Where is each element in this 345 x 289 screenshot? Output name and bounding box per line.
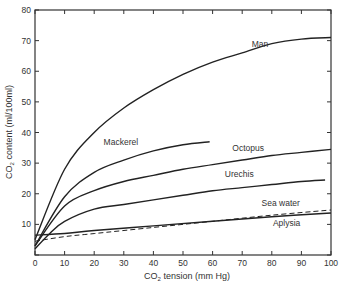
y-axis-label: CO2 content (ml/100ml): [4, 85, 15, 179]
x-tick-label: 0: [33, 258, 38, 268]
x-tick-label: 30: [119, 258, 129, 268]
series-line-man: [35, 38, 331, 240]
series-label-sea-water: Sea water: [262, 198, 300, 208]
series-label-octopus: Octopus: [232, 143, 264, 153]
x-tick-label: 60: [208, 258, 218, 268]
series-label-man: Man: [252, 39, 269, 49]
x-tick-label: 100: [324, 258, 338, 268]
x-tick-label: 10: [60, 258, 70, 268]
series-label-mackerel: Mackerel: [104, 137, 139, 147]
x-tick-label: 90: [297, 258, 307, 268]
x-tick-label: 20: [89, 258, 99, 268]
y-tick-label: 10: [22, 219, 32, 229]
x-axis-label: CO2 tension (mm Hg): [144, 271, 230, 282]
y-tick-label: 50: [22, 97, 32, 107]
y-tick-label: 60: [22, 66, 32, 76]
x-tick-label: 50: [178, 258, 188, 268]
y-tick-label: 20: [22, 189, 32, 199]
y-tick-label: 70: [22, 36, 32, 46]
x-tick-label: 40: [149, 258, 159, 268]
series-label-urechis: Urechis: [225, 169, 254, 179]
series-label-aplysia: Aplysia: [273, 218, 301, 228]
x-tick-label: 70: [237, 258, 247, 268]
co2-dissociation-chart: 01020304050607080901001020304050607080 M…: [0, 0, 345, 289]
y-tick-label: 80: [22, 5, 32, 15]
y-tick-label: 30: [22, 158, 32, 168]
series-labels: ManMackerelOctopusUrechisSea waterAplysi…: [104, 39, 301, 228]
axes: 01020304050607080901001020304050607080: [22, 5, 339, 268]
x-tick-label: 80: [267, 258, 277, 268]
y-tick-label: 40: [22, 128, 32, 138]
